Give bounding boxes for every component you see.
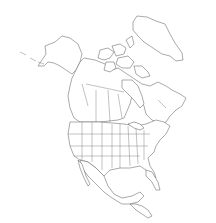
north-america-map bbox=[0, 0, 216, 223]
alaska bbox=[38, 36, 82, 74]
greenland bbox=[133, 16, 183, 61]
central-america bbox=[130, 204, 152, 218]
